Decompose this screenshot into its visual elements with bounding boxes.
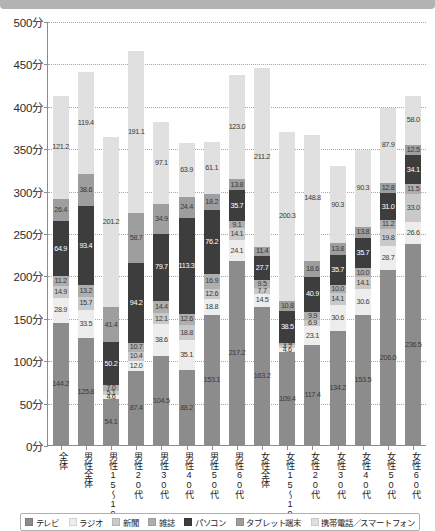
x-axis-label: 男性50代 bbox=[203, 452, 219, 510]
bar-segment: 35.7 bbox=[355, 238, 371, 268]
x-axis-tick-mark bbox=[86, 445, 87, 450]
bar-segment: 11.4 bbox=[254, 247, 270, 257]
bar-segment-value: 61.1 bbox=[205, 165, 218, 172]
bar-segment: 14.4 bbox=[153, 301, 169, 313]
bar-segment: 35.7 bbox=[229, 190, 245, 220]
bar-segment-value: 119.4 bbox=[78, 119, 94, 126]
bar-segment: 76.2 bbox=[204, 210, 220, 275]
bar-segment-value: 38.5 bbox=[281, 323, 294, 330]
legend-swatch bbox=[311, 518, 319, 526]
bar-segment: 34.1 bbox=[405, 155, 421, 184]
bar-column: 90.313.835.710.014.130.6153.5 bbox=[355, 22, 371, 445]
bar-segment-value: 211.2 bbox=[254, 153, 270, 160]
x-axis-label: 女性15～19歳 bbox=[279, 452, 295, 510]
x-axis-label: 男性60代 bbox=[228, 452, 244, 510]
bar-column: 211.211.427.79.57.714.5163.2 bbox=[254, 22, 270, 445]
bar-column: 148.818.640.99.96.923.1117.4 bbox=[304, 22, 320, 445]
bar-segment-value: 14.5 bbox=[256, 297, 269, 304]
bar-column: 97.134.979.714.412.138.6104.5 bbox=[153, 22, 169, 445]
x-axis-label: 男性全体 bbox=[77, 452, 93, 510]
legend-item[interactable]: ラジオ bbox=[69, 516, 103, 528]
bar-segment: 11.5 bbox=[405, 184, 421, 194]
x-axis-tick-mark bbox=[61, 445, 62, 450]
x-axis-label: 女性20代 bbox=[304, 452, 320, 510]
bar-segment: 33.0 bbox=[405, 194, 421, 222]
bar-segment: 23.1 bbox=[304, 326, 320, 346]
bar-segment-value: 11.5 bbox=[407, 185, 419, 192]
plot-inner: 0分50分100分150分200分250分300分350分400分450分500… bbox=[47, 22, 426, 446]
bar-segment: 119.4 bbox=[78, 72, 94, 173]
bar-segment-value: 200.3 bbox=[279, 213, 296, 220]
legend-label: 携帯電話／スマートフォン bbox=[321, 516, 415, 528]
bar-segment-value: 35.7 bbox=[356, 250, 369, 257]
bar-segment-value: 63.9 bbox=[180, 166, 193, 173]
bar-segment-value: 64.9 bbox=[54, 245, 67, 252]
bar-segment: 87.4 bbox=[128, 371, 144, 445]
bar-segment: 88.2 bbox=[179, 370, 195, 445]
bar-segment: 144.2 bbox=[53, 323, 69, 445]
bar-segment-value: 153.1 bbox=[203, 376, 220, 383]
bar-segment-value: 79.7 bbox=[155, 264, 168, 271]
bar-segment: 14.1 bbox=[330, 293, 346, 305]
y-axis-tick-label: 350分 bbox=[14, 141, 43, 157]
x-axis-tick-mark bbox=[111, 445, 112, 450]
bar-segment-value: 41.4 bbox=[105, 321, 118, 328]
bar-segment: 10.0 bbox=[330, 285, 346, 293]
bar-segment: 14.1 bbox=[229, 228, 245, 240]
legend-item[interactable]: パソコン bbox=[184, 516, 226, 528]
legend-item[interactable]: 新聞 bbox=[112, 516, 138, 528]
bar-segment: 94.2 bbox=[128, 263, 144, 343]
bar-segment-value: 148.8 bbox=[304, 194, 321, 201]
legend-item[interactable]: 雑誌 bbox=[148, 516, 174, 528]
bar-segment: 13.8 bbox=[229, 179, 245, 191]
y-axis-tick-label: 0分 bbox=[26, 438, 43, 454]
bar-segment-value: 113.3 bbox=[179, 262, 195, 269]
bar-segment-value: 38.6 bbox=[79, 186, 92, 193]
bar-segment: 61.1 bbox=[204, 142, 220, 194]
bar-segment-value: 163.2 bbox=[254, 372, 271, 379]
x-axis-label: 男性20代 bbox=[127, 452, 143, 510]
x-axis-tick-mark bbox=[237, 445, 238, 450]
y-axis-tick-label: 500分 bbox=[14, 14, 43, 30]
bar-segment: 58.7 bbox=[128, 213, 144, 263]
bar-segment-value: 94.2 bbox=[130, 299, 143, 306]
bar-segment: 206.0 bbox=[380, 270, 396, 445]
bar-segment: 153.5 bbox=[355, 315, 371, 445]
legend-swatch bbox=[184, 518, 192, 526]
bar-column: 87.912.831.011.219.828.7206.0 bbox=[380, 22, 396, 445]
legend-swatch bbox=[236, 518, 244, 526]
x-axis-label: 全体 bbox=[52, 452, 68, 510]
bar-segment-value: 58.7 bbox=[130, 234, 143, 241]
bar-segment: 64.9 bbox=[53, 221, 69, 276]
bar-segment-value: 12.5 bbox=[407, 146, 420, 153]
bar-segment: 201.2 bbox=[103, 137, 119, 308]
bar-segment: 13.8 bbox=[355, 227, 371, 239]
legend-item[interactable]: 携帯電話／スマートフォン bbox=[311, 516, 415, 528]
bar-column: 191.158.794.210.710.412.087.4 bbox=[128, 22, 144, 445]
bar-segment: 13.2 bbox=[78, 285, 94, 296]
bar-segment: 211.2 bbox=[254, 68, 270, 247]
y-axis-tick-label: 300分 bbox=[14, 184, 43, 200]
legend-swatch bbox=[69, 518, 77, 526]
bar-segment: 28.7 bbox=[380, 246, 396, 270]
bar-segment-value: 27.7 bbox=[256, 264, 269, 271]
x-axis-tick-mark bbox=[338, 445, 339, 450]
bar-segment-value: 18.2 bbox=[205, 198, 218, 205]
bar-segment: 90.3 bbox=[355, 150, 371, 227]
bar-segment: 125.8 bbox=[78, 338, 94, 445]
legend-item[interactable]: タブレット端末 bbox=[236, 516, 301, 528]
bar-segment-value: 88.2 bbox=[180, 404, 193, 411]
bar-segment-value: 9.1 bbox=[232, 221, 241, 228]
bar-segment-value: 14.1 bbox=[231, 231, 244, 238]
y-axis-tick-label: 450分 bbox=[14, 56, 43, 72]
bar-segment-value: 11.2 bbox=[382, 221, 394, 228]
bar-segment: 35.1 bbox=[179, 340, 195, 370]
bar-segment: 14.9 bbox=[53, 286, 69, 299]
bar-column: 90.313.835.710.014.130.6134.2 bbox=[330, 22, 346, 445]
x-axis-tick-mark bbox=[287, 445, 288, 450]
bar-segment-value: 144.2 bbox=[52, 380, 69, 387]
bar-segment: 19.8 bbox=[380, 229, 396, 246]
legend-item[interactable]: テレビ bbox=[25, 516, 59, 528]
x-axis-label: 女性30代 bbox=[330, 452, 346, 510]
bar-column: 61.118.276.216.912.618.8153.1 bbox=[204, 22, 220, 445]
